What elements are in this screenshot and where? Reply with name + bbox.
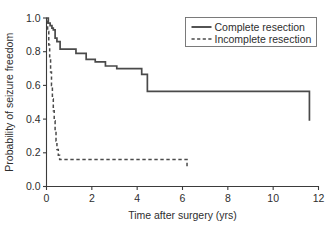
legend-label-complete-resection: Complete resection	[215, 21, 306, 33]
chart-canvas: 0.00.20.40.60.81.0 024681012 Complete re…	[0, 0, 329, 230]
x-tick-label: 2	[89, 192, 95, 204]
y-tick-label: 0.6	[26, 79, 41, 91]
x-tick-label: 10	[267, 192, 279, 204]
y-tick-label: 0.8	[26, 45, 41, 57]
y-tick-label: 0.0	[26, 180, 41, 192]
y-axis-ticks: 0.00.20.40.60.81.0	[26, 12, 47, 193]
x-tick-label: 4	[134, 192, 140, 204]
x-axis-title: Time after surgery (yrs)	[128, 209, 237, 221]
chart-legend: Complete resection Incomplete resection	[186, 18, 317, 47]
y-tick-label: 0.2	[26, 146, 41, 158]
x-tick-label: 6	[180, 192, 186, 204]
series-incomplete-resection	[47, 21, 188, 168]
y-tick-label: 0.4	[26, 113, 41, 125]
x-axis-ticks: 024681012	[44, 187, 325, 204]
y-axis-group: 0.00.20.40.60.81.0	[26, 12, 47, 193]
x-tick-label: 12	[313, 192, 325, 204]
x-tick-label: 8	[225, 192, 231, 204]
y-axis-title: Probability of seizure freedom	[3, 33, 15, 172]
y-tick-label: 1.0	[26, 12, 41, 24]
x-axis-group: 024681012	[44, 187, 325, 204]
legend-label-incomplete-resection: Incomplete resection	[215, 33, 312, 45]
x-tick-label: 0	[44, 192, 50, 204]
survival-curve-chart: 0.00.20.40.60.81.0 024681012 Complete re…	[0, 0, 329, 230]
